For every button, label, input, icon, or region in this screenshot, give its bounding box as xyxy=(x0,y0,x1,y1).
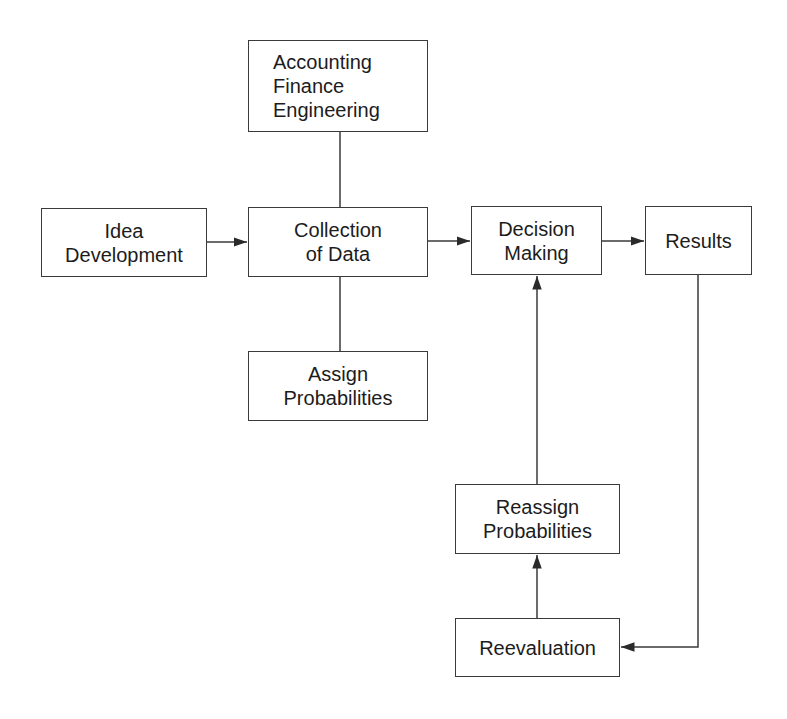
node-label: Collection xyxy=(294,218,382,242)
node-label: Reevaluation xyxy=(479,636,596,660)
node-label: Finance xyxy=(273,74,344,98)
node-label: Reassign xyxy=(496,495,579,519)
node-label: Making xyxy=(504,241,568,265)
node-label: Assign xyxy=(308,362,368,386)
node-accounting-finance-engineering: Accounting Finance Engineering xyxy=(248,40,428,132)
node-label: Engineering xyxy=(273,98,380,122)
node-label: Results xyxy=(665,229,732,253)
edge-results-reevaluation xyxy=(621,275,698,647)
node-label: Decision xyxy=(498,217,575,241)
node-assign-probabilities: Assign Probabilities xyxy=(248,351,428,421)
node-collection-of-data: Collection of Data xyxy=(248,207,428,277)
node-label: Idea xyxy=(105,219,144,243)
node-decision-making: Decision Making xyxy=(471,206,602,275)
node-results: Results xyxy=(645,206,752,275)
node-label: Probabilities xyxy=(483,519,592,543)
node-reassign-probabilities: Reassign Probabilities xyxy=(455,484,620,554)
node-label: Probabilities xyxy=(284,386,393,410)
node-label: Development xyxy=(65,243,183,267)
node-reevaluation: Reevaluation xyxy=(455,618,620,677)
node-label: of Data xyxy=(306,242,370,266)
node-label: Accounting xyxy=(273,50,372,74)
node-idea-development: Idea Development xyxy=(41,208,207,277)
